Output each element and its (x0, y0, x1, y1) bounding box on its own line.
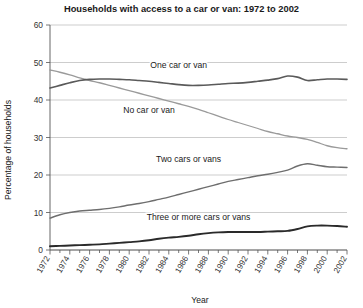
series-label-2: Two cars or vans (156, 154, 221, 164)
y-tick-label: 60 (34, 20, 44, 30)
y-tick-label: 20 (34, 170, 44, 180)
y-tick-label: 50 (34, 58, 44, 68)
y-tick-label: 10 (34, 208, 44, 218)
series-label-3: Three or more cars or vans (147, 212, 251, 222)
chart-title: Households with access to a car or van: … (64, 4, 299, 14)
y-tick-label: 30 (34, 133, 44, 143)
y-tick-label: 40 (34, 95, 44, 105)
x-axis-title: Year (191, 295, 209, 305)
chart-container: Households with access to a car or van: … (0, 0, 363, 308)
line-chart: Households with access to a car or van: … (0, 0, 363, 308)
y-tick-label: 0 (38, 245, 43, 255)
series-label-1: One car or van (150, 60, 207, 70)
series-label-0: No car or van (123, 105, 175, 115)
y-axis-title: Percentage of households (3, 100, 13, 200)
